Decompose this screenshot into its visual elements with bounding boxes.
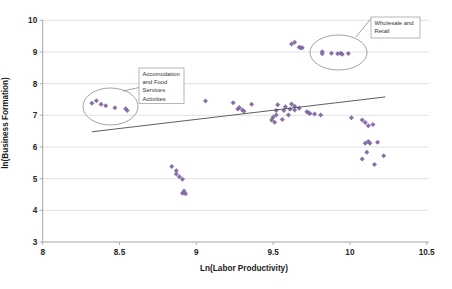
y-tick-label: 4 [33, 206, 38, 215]
data-point [372, 162, 377, 167]
data-point [375, 140, 380, 145]
y-tick-label: 6 [33, 143, 38, 152]
data-point [275, 102, 280, 107]
y-tick-label: 3 [33, 238, 38, 247]
data-point [169, 164, 174, 169]
data-point [370, 122, 375, 127]
x-axis-title: Ln(Labor Productivity) [200, 264, 288, 273]
annotations: Accomodationand FoodServicesActivitiesWh… [83, 17, 420, 125]
y-tick-label: 7 [33, 111, 38, 120]
scatter-chart: 34567891088.599.51010.5 Accomodationand … [0, 0, 452, 289]
data-point [99, 102, 104, 107]
data-point [349, 115, 354, 120]
y-tick-label: 9 [33, 48, 38, 57]
x-tick-label: 8 [40, 248, 45, 257]
data-point [366, 123, 371, 128]
callout-line [356, 19, 371, 38]
data-point [203, 99, 208, 104]
data-point [364, 150, 369, 155]
annotation-text: Wholesale and [375, 20, 414, 26]
data-point [103, 103, 108, 108]
data-point [286, 112, 291, 117]
data-point [312, 112, 317, 117]
data-point [231, 100, 236, 105]
scatter-plot-figure: 34567891088.599.51010.5 Accomodationand … [0, 0, 452, 289]
callout-line [123, 88, 139, 92]
annotation-text: Retail [375, 28, 390, 34]
data-point [112, 105, 117, 110]
data-point [274, 108, 279, 113]
annotation-text: Services [143, 87, 166, 93]
data-point [280, 117, 285, 122]
y-tick-label: 8 [33, 80, 38, 89]
annotation-text: Activities [143, 96, 166, 102]
data-point [89, 101, 94, 106]
x-tick-label: 10.5 [419, 248, 435, 257]
cluster-ellipse [83, 88, 138, 125]
x-tick-label: 10 [345, 248, 355, 257]
data-points [89, 40, 386, 197]
x-tick-label: 9.5 [267, 248, 279, 257]
data-point [318, 112, 323, 117]
y-tick-label: 5 [33, 175, 38, 184]
x-tick-label: 8.5 [114, 248, 126, 257]
annotation-text: Accomodation [143, 71, 180, 77]
data-point [329, 51, 334, 56]
data-point [94, 98, 99, 103]
annotation-text: and Food [143, 79, 168, 85]
y-axis-title: ln(Business Formation) [1, 77, 10, 169]
data-point [287, 107, 292, 112]
data-point [381, 153, 386, 158]
x-tick-label: 9 [194, 248, 199, 257]
gridlines [43, 20, 429, 210]
data-point [249, 102, 254, 107]
y-tick-label: 10 [28, 16, 38, 25]
data-point [360, 157, 365, 162]
